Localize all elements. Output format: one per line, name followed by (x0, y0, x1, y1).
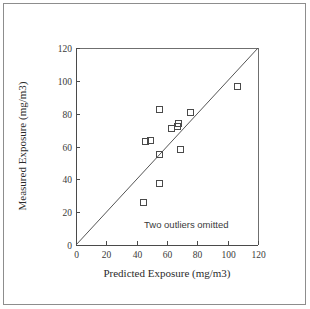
y-tick-label: 120 (58, 44, 73, 54)
x-axis-tick-labels: 020406080100120 (74, 250, 266, 260)
data-point-marker (157, 181, 163, 187)
x-tick-label: 100 (221, 250, 236, 260)
outlier-annotation: Two outliers omitted (144, 219, 228, 230)
y-tick-label: 0 (67, 241, 72, 251)
y-tick-label: 40 (63, 175, 73, 185)
data-point-marker (178, 147, 184, 153)
plot-canvas: 020406080100120 020406080100120 Predicte… (0, 0, 310, 309)
x-axis-title: Predicted Exposure (mg/m3) (103, 267, 230, 280)
data-point-marker (141, 200, 147, 206)
scatter-plot: 020406080100120 020406080100120 Predicte… (0, 0, 310, 309)
data-point-marker (235, 84, 241, 90)
data-point-marker (169, 126, 175, 132)
x-tick-label: 0 (74, 250, 79, 260)
data-point-marker (157, 107, 163, 113)
x-axis-ticks (77, 241, 259, 245)
x-tick-label: 120 (251, 250, 266, 260)
y-tick-label: 60 (63, 143, 73, 153)
x-tick-label: 60 (163, 250, 173, 260)
x-tick-label: 40 (133, 250, 143, 260)
data-point-markers (141, 84, 241, 206)
x-tick-label: 20 (102, 250, 112, 260)
identity-line (76, 48, 258, 245)
x-tick-label: 80 (193, 250, 203, 260)
y-axis-ticks (76, 49, 80, 246)
identity-reference-line (76, 48, 258, 245)
y-axis-tick-labels: 020406080100120 (58, 44, 73, 251)
y-tick-label: 80 (63, 110, 73, 120)
y-tick-label: 100 (58, 77, 73, 87)
y-tick-label: 20 (63, 208, 73, 218)
data-point-marker (188, 110, 194, 116)
y-axis-title: Measured Exposure (mg/m3) (16, 81, 29, 210)
